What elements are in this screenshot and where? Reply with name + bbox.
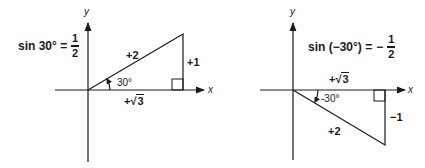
left-equation-fraction: 1 2: [71, 33, 79, 59]
left-hypotenuse-label: +2: [126, 50, 139, 61]
left-right-angle-marker: [172, 79, 183, 90]
left-equation-lhs: sin 30° =: [18, 40, 67, 52]
right-equation-sign: −: [376, 41, 383, 53]
radicand: 3: [136, 94, 143, 107]
fraction-numerator: 1: [72, 33, 78, 44]
fraction-numerator: 1: [388, 34, 394, 45]
right-opposite-label: −1: [390, 112, 403, 123]
right-x-axis-label: x: [408, 85, 413, 95]
right-right-angle-marker: [374, 90, 385, 101]
right-equation: sin (−30°) = − 1 2: [308, 34, 395, 60]
fraction-denominator: 2: [72, 48, 78, 59]
radicand: 3: [341, 72, 348, 85]
fraction-denominator: 2: [388, 49, 394, 60]
left-x-axis-label: x: [208, 85, 213, 95]
left-angle-label: 30°: [117, 78, 132, 88]
sign: +: [329, 73, 335, 85]
left-opposite-label: +1: [187, 57, 200, 68]
sign: +: [124, 95, 130, 107]
left-triangle: [88, 34, 183, 90]
right-angle-label: -30°: [321, 94, 339, 104]
left-angle-arc: [107, 79, 110, 90]
right-hypotenuse-label: +2: [328, 126, 341, 137]
left-adjacent-label: +√3: [124, 96, 144, 107]
right-equation-fraction: 1 2: [387, 34, 395, 60]
left-equation: sin 30° = 1 2: [18, 33, 79, 59]
right-adjacent-label: +√3: [329, 74, 349, 85]
left-y-axis-label: y: [84, 7, 89, 17]
right-y-axis-label: y: [290, 7, 295, 17]
right-angle-arc: [315, 90, 318, 102]
right-equation-lhs: sin (−30°) =: [308, 41, 372, 53]
